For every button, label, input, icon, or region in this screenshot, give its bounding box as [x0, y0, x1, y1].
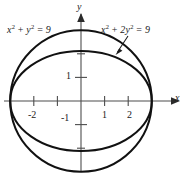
y-tick-label-1: 1 — [66, 71, 71, 81]
ellipse-callout-arrowhead — [116, 49, 123, 55]
y-axis-arrowhead — [77, 13, 85, 22]
circle-equation-label: x2 + y2 = 9 — [7, 24, 51, 35]
x-tick-label-2: 2 — [127, 110, 132, 120]
ellipse-equation-label: x2 + 2y2 = 9 — [101, 24, 150, 35]
x-tick-label--2: -2 — [28, 110, 36, 120]
y-axis-label: y — [77, 2, 81, 12]
x-axis-label: x — [175, 93, 179, 103]
x-tick-label-1: 1 — [102, 110, 107, 120]
figure-canvas: x2 + y2 = 9 x2 + 2y2 = 9 x y -2 1 2 1 -1 — [0, 0, 188, 177]
y-tick-label--1: -1 — [61, 113, 69, 123]
